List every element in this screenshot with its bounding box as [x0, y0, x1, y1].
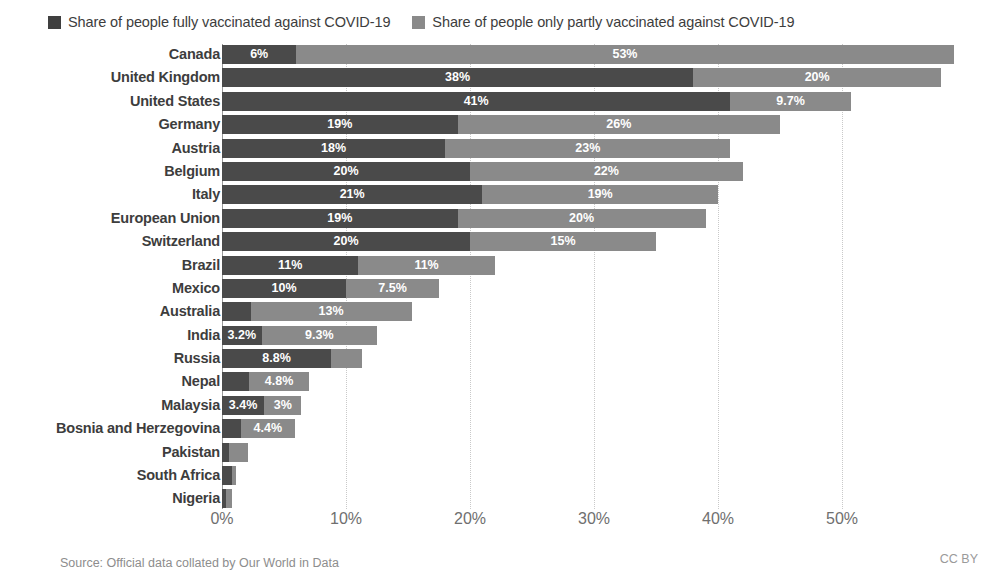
bar-segment-fully-vaccinated: 20% [222, 162, 470, 181]
bar-segment-fully-vaccinated [222, 302, 251, 321]
bar-segment-partly-vaccinated: 15% [470, 232, 656, 251]
category-label: Canada [169, 44, 220, 65]
legend-label-fully: Share of people fully vaccinated against… [68, 14, 390, 30]
legend-label-partly: Share of people only partly vaccinated a… [432, 14, 794, 30]
stacked-bar: 10%7.5% [222, 279, 439, 298]
bar-segment-partly-vaccinated: 26% [458, 115, 780, 134]
chart-source-note: Source: Official data collated by Our Wo… [60, 556, 339, 570]
category-label: Mexico [172, 278, 220, 299]
bar-segment-fully-vaccinated: 41% [222, 92, 730, 111]
chart-row: Bosnia and Herzegovina4.4% [0, 418, 996, 441]
stacked-bar: 6%53% [222, 45, 954, 64]
category-label: India [187, 325, 220, 346]
bar-segment-partly-vaccinated: 53% [296, 45, 953, 64]
chart-legend: Share of people fully vaccinated against… [48, 14, 794, 30]
chart-row: Russia8.8% [0, 348, 996, 371]
bar-value-label: 41% [222, 92, 730, 111]
stacked-bar: 41%9.7% [222, 92, 851, 111]
stacked-bar: 13% [222, 302, 412, 321]
bar-value-label: 19% [222, 209, 458, 228]
stacked-bar: 8.8% [222, 349, 362, 368]
bar-segment-fully-vaccinated: 38% [222, 68, 693, 87]
bar-segment-partly-vaccinated: 9.7% [730, 92, 850, 111]
bar-value-label: 21% [222, 185, 482, 204]
chart-row: United Kingdom38%20% [0, 67, 996, 90]
stacked-bar: 3.4%3% [222, 396, 301, 415]
category-label: Pakistan [162, 442, 220, 463]
bar-value-label: 18% [222, 139, 445, 158]
stacked-bar: 20%15% [222, 232, 656, 251]
bar-segment-fully-vaccinated [222, 372, 249, 391]
bar-value-label: 9.3% [262, 326, 377, 345]
stacked-bar: 19%26% [222, 115, 780, 134]
stacked-bar [222, 489, 232, 508]
chart-row: Mexico10%7.5% [0, 278, 996, 301]
bar-value-label: 23% [445, 139, 730, 158]
bar-segment-partly-vaccinated: 20% [458, 209, 706, 228]
bar-segment-partly-vaccinated: 4.4% [241, 419, 296, 438]
stacked-bar: 38%20% [222, 68, 941, 87]
stacked-bar: 18%23% [222, 139, 730, 158]
stacked-bar: 19%20% [222, 209, 706, 228]
category-label: Italy [192, 184, 220, 205]
bar-value-label: 15% [470, 232, 656, 251]
bar-value-label: 3.4% [222, 396, 264, 415]
chart-row: India3.2%9.3% [0, 325, 996, 348]
legend-swatch-icon-partly [412, 16, 425, 29]
category-label: Switzerland [142, 231, 220, 252]
bar-segment-fully-vaccinated: 8.8% [222, 349, 331, 368]
category-label: United States [130, 91, 220, 112]
chart-row: Nepal4.8% [0, 371, 996, 394]
bar-segment-partly-vaccinated: 4.8% [249, 372, 309, 391]
category-label: Russia [174, 348, 220, 369]
category-label: Germany [159, 114, 220, 135]
category-label: Nepal [182, 371, 221, 392]
category-label: Nigeria [172, 488, 220, 509]
bar-segment-partly-vaccinated [226, 489, 232, 508]
bar-segment-partly-vaccinated: 3% [264, 396, 301, 415]
chart-x-axis: 0%10%20%30%40%50% [0, 510, 996, 534]
category-label: South Africa [137, 465, 220, 486]
stacked-bar: 11%11% [222, 256, 495, 275]
bar-value-label: 7.5% [346, 279, 439, 298]
x-axis-tick-label: 50% [826, 510, 858, 528]
stacked-bar [222, 443, 248, 462]
stacked-bar: 20%22% [222, 162, 743, 181]
category-label: United Kingdom [111, 67, 220, 88]
bar-segment-fully-vaccinated: 3.4% [222, 396, 264, 415]
bar-value-label: 13% [251, 302, 412, 321]
bar-segment-partly-vaccinated: 19% [482, 185, 718, 204]
chart-bar-rows: Canada6%53%United Kingdom38%20%United St… [0, 44, 996, 512]
category-label: Austria [171, 138, 220, 159]
bar-value-label: 19% [482, 185, 718, 204]
chart-row: Belgium20%22% [0, 161, 996, 184]
chart-row: Switzerland20%15% [0, 231, 996, 254]
bar-value-label: 20% [222, 162, 470, 181]
stacked-bar [222, 466, 236, 485]
x-axis-tick-label: 20% [454, 510, 486, 528]
bar-segment-partly-vaccinated: 13% [251, 302, 412, 321]
category-label: Australia [160, 301, 220, 322]
bar-value-label: 3.2% [222, 326, 262, 345]
bar-value-label: 38% [222, 68, 693, 87]
bar-value-label: 20% [693, 68, 941, 87]
legend-entry-partly-vaccinated: Share of people only partly vaccinated a… [412, 14, 794, 30]
category-label: Bosnia and Herzegovina [56, 418, 220, 439]
stacked-bar: 21%19% [222, 185, 718, 204]
bar-value-label: 20% [458, 209, 706, 228]
category-label: Brazil [182, 255, 220, 276]
bar-segment-partly-vaccinated [232, 466, 236, 485]
bar-segment-partly-vaccinated [331, 349, 362, 368]
chart-row: United States41%9.7% [0, 91, 996, 114]
category-label: European Union [111, 208, 220, 229]
bar-value-label: 4.8% [249, 372, 309, 391]
chart-plot-area: Canada6%53%United Kingdom38%20%United St… [0, 44, 996, 509]
bar-value-label: 3% [264, 396, 301, 415]
bar-value-label: 19% [222, 115, 458, 134]
legend-entry-fully-vaccinated: Share of people fully vaccinated against… [48, 14, 390, 30]
chart-row: South Africa [0, 465, 996, 488]
bar-value-label: 20% [222, 232, 470, 251]
category-label: Malaysia [161, 395, 220, 416]
chart-row: Austria18%23% [0, 138, 996, 161]
bar-segment-fully-vaccinated: 10% [222, 279, 346, 298]
